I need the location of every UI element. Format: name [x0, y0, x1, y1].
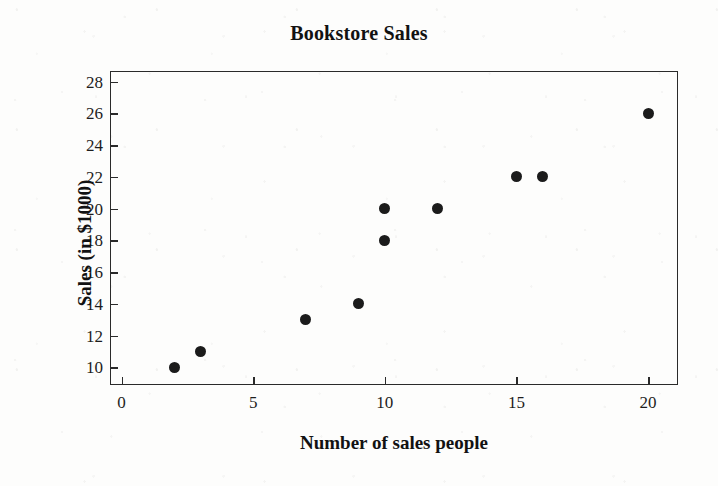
y-axis-tick-label: 12	[86, 327, 103, 344]
y-axis-title: Sales (in $1000)	[74, 180, 96, 307]
y-axis-tick	[110, 113, 118, 115]
plot-area	[111, 72, 677, 384]
scatter-point	[169, 362, 180, 373]
x-axis-tick	[648, 377, 650, 385]
x-axis-title: Number of sales people	[110, 432, 678, 454]
scatter-chart-figure: Bookstore Sales 101214161820222426280510…	[0, 0, 718, 486]
y-axis-tick	[110, 272, 118, 274]
x-axis-tick-label: 0	[117, 394, 126, 411]
y-axis-tick-label: 26	[86, 105, 103, 122]
scatter-point	[195, 346, 206, 357]
scatter-point	[379, 203, 390, 214]
x-axis-tick-label: 10	[376, 394, 393, 411]
plot-frame: 1012141618202224262805101520	[110, 71, 678, 385]
x-axis-tick-label: 5	[249, 394, 258, 411]
scatter-point	[511, 171, 522, 182]
scatter-point	[643, 108, 654, 119]
x-axis-tick	[122, 377, 124, 385]
x-axis-tick	[253, 377, 255, 385]
x-axis-tick	[385, 377, 387, 385]
y-axis-tick	[110, 177, 118, 179]
scatter-point	[432, 203, 443, 214]
y-axis-tick-label: 24	[86, 137, 103, 154]
scatter-point	[353, 298, 364, 309]
scatter-point	[537, 171, 548, 182]
y-axis-tick	[110, 367, 118, 369]
y-axis-tick	[110, 304, 118, 306]
y-axis-tick	[110, 82, 118, 84]
y-axis-tick-label: 28	[86, 73, 103, 90]
y-axis-tick	[110, 240, 118, 242]
scatter-point	[300, 314, 311, 325]
x-axis-tick-label: 15	[508, 394, 525, 411]
x-axis-tick-label: 20	[640, 394, 657, 411]
y-axis-tick-label: 10	[86, 359, 103, 376]
x-axis-tick	[516, 377, 518, 385]
y-axis-tick	[110, 336, 118, 338]
y-axis-tick	[110, 145, 118, 147]
y-axis-tick	[110, 209, 118, 211]
scatter-point	[379, 235, 390, 246]
chart-title: Bookstore Sales	[0, 22, 718, 45]
